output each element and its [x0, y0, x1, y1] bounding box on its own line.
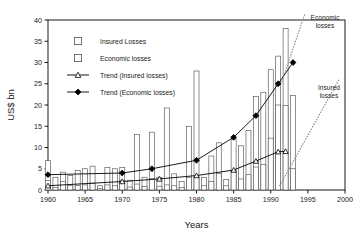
- annotation-economic-line2: losses: [316, 22, 335, 29]
- bar-insured-1986: [239, 179, 244, 190]
- x-tick-label-1975: 1975: [151, 195, 167, 204]
- y-tick-label-15: 15: [34, 122, 42, 131]
- bar-insured-1968: [105, 185, 110, 190]
- y-tick-label-5: 5: [38, 164, 42, 173]
- bar-insured-1988: [253, 167, 258, 190]
- bar-insured-1991: [276, 105, 281, 190]
- x-tick-label-1990: 1990: [263, 195, 279, 204]
- y-tick-label-35: 35: [34, 37, 42, 46]
- bar-insured-1962: [60, 182, 65, 191]
- bar-insured-1990: [268, 138, 273, 190]
- y-tick-label-20: 20: [34, 101, 42, 110]
- x-tick-label-1985: 1985: [226, 195, 242, 204]
- x-tick-label-1960: 1960: [40, 195, 56, 204]
- x-tick-label-1970: 1970: [114, 195, 130, 204]
- bar-insured-1983: [216, 173, 221, 190]
- bar-insured-1982: [209, 182, 214, 191]
- bar-insured-1992: [283, 105, 288, 190]
- losses-chart: 0510152025303540196019651970197519801985…: [0, 0, 364, 234]
- bar-insured-1978: [179, 187, 184, 190]
- legend-marker-economic_losses: [74, 54, 81, 61]
- bar-insured-1972: [135, 184, 140, 190]
- annotation-insured-line1: Insured: [318, 84, 340, 91]
- legend-label-trend_economic: Trend (Economic losses): [100, 89, 175, 97]
- x-tick-label-2000: 2000: [337, 195, 353, 204]
- annotation-insured-line2: losses: [320, 92, 339, 99]
- bar-insured-1971: [127, 187, 132, 190]
- x-axis-title: Years: [185, 219, 209, 230]
- bar-insured-1993: [291, 169, 296, 190]
- y-tick-label-30: 30: [34, 58, 42, 67]
- bar-insured-1989: [261, 165, 266, 191]
- bar-insured-1963: [68, 186, 73, 190]
- y-tick-label-40: 40: [34, 16, 42, 25]
- bar-insured-1969: [112, 186, 117, 190]
- legend-label-trend_insured: Trend (Insured losses): [100, 72, 168, 80]
- bar-insured-1985: [231, 171, 236, 190]
- bar-insured-1981: [201, 186, 206, 190]
- bar-insured-1966: [90, 183, 95, 190]
- x-tick-label-1965: 1965: [77, 195, 93, 204]
- annotation-economic-line1: Economic: [311, 14, 341, 21]
- bar-insured-1964: [75, 185, 80, 190]
- y-tick-label-10: 10: [34, 143, 42, 152]
- legend-label-insured_losses: Insured Losses: [100, 38, 147, 45]
- legend-marker-insured_losses: [74, 37, 81, 44]
- bar-insured-1975: [157, 186, 162, 190]
- bar-insured-1973: [142, 187, 147, 190]
- bar-insured-1980: [194, 177, 199, 190]
- bar-insured-1977: [172, 186, 177, 190]
- legend-label-economic_losses: Economic losses: [100, 55, 152, 62]
- bar-insured-1974: [149, 179, 154, 190]
- bar-insured-1967: [97, 189, 102, 190]
- bar-insured-1987: [246, 175, 251, 190]
- chart-container: 0510152025303540196019651970197519801985…: [0, 0, 364, 234]
- y-tick-label-25: 25: [34, 79, 42, 88]
- bar-insured-1965: [83, 185, 88, 190]
- bar-insured-1984: [224, 186, 229, 190]
- x-tick-label-1995: 1995: [300, 195, 316, 204]
- bar-insured-1961: [53, 187, 58, 190]
- x-tick-label-1980: 1980: [189, 195, 205, 204]
- y-tick-label-0: 0: [38, 186, 42, 195]
- bar-insured-1979: [187, 177, 192, 190]
- bar-economic-1972: [135, 134, 140, 190]
- bar-insured-1976: [164, 185, 169, 190]
- y-axis-title: US$ bn: [5, 89, 16, 121]
